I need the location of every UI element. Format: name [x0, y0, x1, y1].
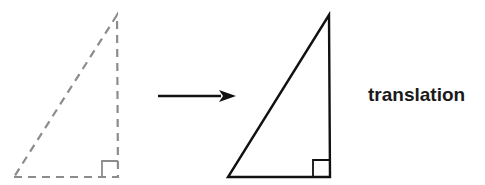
translated-triangle	[228, 15, 330, 177]
transformation-label: translation	[368, 84, 465, 106]
translated-right-angle-marker	[313, 160, 330, 177]
original-right-angle-marker	[102, 161, 118, 177]
arrow-head-icon	[219, 90, 236, 102]
translation-arrow	[158, 90, 236, 102]
translation-diagram: translation	[0, 0, 485, 185]
original-triangle	[14, 15, 118, 177]
